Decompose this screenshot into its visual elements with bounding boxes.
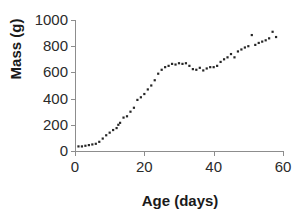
data-point (164, 66, 166, 68)
data-point (226, 56, 228, 58)
data-point (140, 96, 142, 98)
x-tick-label: 60 (275, 158, 292, 175)
x-tick-label: 20 (136, 158, 153, 175)
data-point (109, 132, 111, 134)
data-point (157, 73, 159, 75)
data-point (84, 145, 86, 147)
data-point (112, 129, 114, 131)
data-point (199, 67, 201, 69)
data-point (77, 145, 79, 147)
chart-figure: Mass (g) 02004006008001000 0204060 Age (… (0, 0, 300, 224)
data-point (129, 111, 131, 113)
data-point (122, 117, 124, 119)
data-point (88, 144, 90, 146)
data-point (213, 66, 215, 68)
data-point (117, 124, 119, 126)
data-point-group (77, 31, 277, 148)
data-point (258, 42, 260, 44)
y-tick-label: 600 (43, 63, 68, 80)
data-point (150, 84, 152, 86)
y-tick-label: 800 (43, 37, 68, 54)
data-point (105, 134, 107, 136)
y-tick-label: 1000 (35, 11, 68, 28)
data-point (247, 45, 249, 47)
data-point (126, 115, 128, 117)
data-point (116, 127, 118, 129)
data-point (265, 39, 267, 41)
x-tick-label: 40 (205, 158, 222, 175)
data-point (272, 31, 274, 33)
data-point (119, 122, 121, 124)
data-point (168, 65, 170, 67)
data-point (98, 141, 100, 143)
data-point (192, 68, 194, 70)
y-tick-label: 400 (43, 90, 68, 107)
data-point (254, 44, 256, 46)
data-point (171, 63, 173, 65)
data-point (237, 50, 239, 52)
data-point (147, 88, 149, 90)
y-tick-label: 200 (43, 116, 68, 133)
data-point (202, 69, 204, 71)
data-point (209, 66, 211, 68)
data-point (233, 56, 235, 58)
y-axis-tick-marks (71, 21, 75, 152)
scatter-plot-area: 02004006008001000 0204060 (0, 0, 300, 224)
data-point (181, 63, 183, 65)
x-tick-label: 0 (71, 158, 79, 175)
x-axis-title: Age (days) (75, 192, 285, 209)
data-point (251, 34, 253, 36)
data-point (154, 79, 156, 81)
data-point (275, 36, 277, 38)
data-point (161, 69, 163, 71)
data-point (244, 46, 246, 48)
data-point (220, 61, 222, 63)
data-point (185, 62, 187, 64)
data-point (143, 93, 145, 95)
data-point (206, 67, 208, 69)
data-point (195, 69, 197, 71)
data-point (95, 143, 97, 145)
data-point (91, 143, 93, 145)
y-axis-tick-labels: 02004006008001000 (35, 11, 68, 159)
data-point (174, 63, 176, 65)
data-point (216, 65, 218, 67)
data-point (223, 58, 225, 60)
data-point (81, 145, 83, 147)
x-axis-tick-labels: 0204060 (71, 158, 292, 175)
data-point (178, 62, 180, 64)
data-point (136, 99, 138, 101)
data-point (240, 48, 242, 50)
data-point (133, 107, 135, 109)
y-tick-label: 0 (60, 142, 68, 159)
data-point (268, 37, 270, 39)
data-point (188, 65, 190, 67)
data-point (102, 137, 104, 139)
data-point (230, 53, 232, 55)
data-point (261, 41, 263, 43)
